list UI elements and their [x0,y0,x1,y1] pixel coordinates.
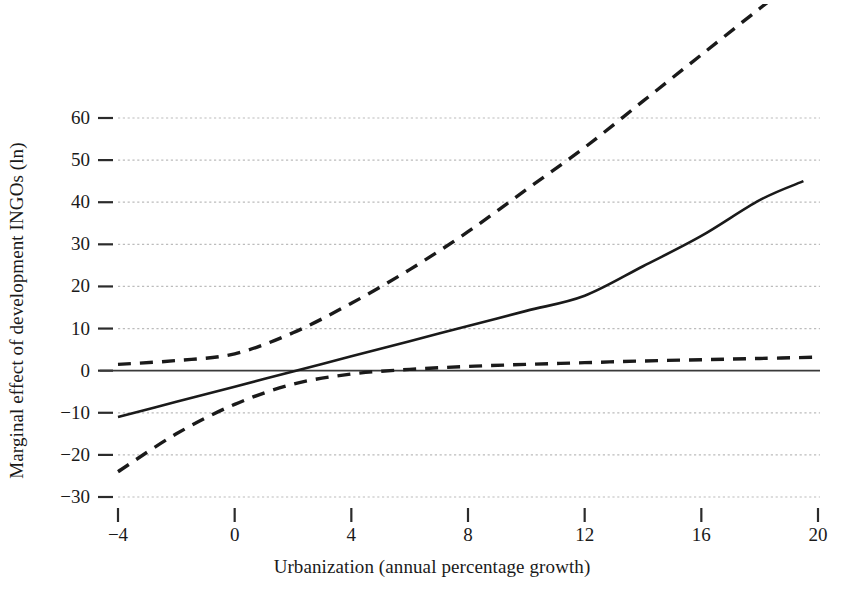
data-series-group [118,0,818,472]
x-tick-mark-group [118,508,818,522]
gridline-group [118,118,820,497]
marginal-effect-line [118,181,803,417]
plot-canvas [0,0,864,607]
confidence-bound-line [118,357,818,472]
y-tick-mark-group [98,118,113,497]
chart-figure: Marginal effect of development INGOs (ln… [0,0,864,607]
confidence-bound-line [118,0,803,364]
